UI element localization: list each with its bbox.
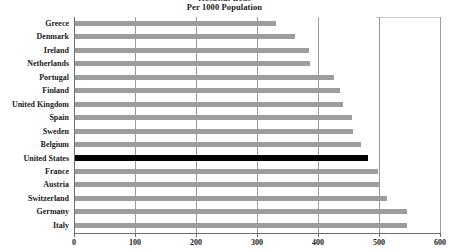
bar-ireland bbox=[75, 48, 309, 53]
bar-finland bbox=[75, 88, 340, 93]
chart-row: Ireland bbox=[0, 45, 449, 56]
chart-row: Greece bbox=[0, 18, 449, 29]
category-label-belgium: Belgium bbox=[0, 139, 69, 150]
bar-austria bbox=[75, 182, 379, 187]
chart-row: Spain bbox=[0, 112, 449, 123]
chart-row: Germany bbox=[0, 206, 449, 217]
chart-row: Switzerland bbox=[0, 193, 449, 204]
bar-portugal bbox=[75, 75, 334, 80]
x-tick-label: 200 bbox=[176, 238, 216, 247]
bar-germany bbox=[75, 209, 407, 214]
x-tick-label: 500 bbox=[359, 238, 399, 247]
chart-row: Belgium bbox=[0, 139, 449, 150]
bar-denmark bbox=[75, 34, 295, 39]
chart-row: Finland bbox=[0, 85, 449, 96]
category-label-united-kingdom: United Kingdom bbox=[0, 99, 69, 110]
x-tick-label: 0 bbox=[54, 238, 94, 247]
chart-title-clipped: Hospital Beds bbox=[0, 0, 449, 1]
chart-row: Netherlands bbox=[0, 58, 449, 69]
chart-row: Portugal bbox=[0, 72, 449, 83]
chart-row: United States bbox=[0, 153, 449, 164]
category-label-ireland: Ireland bbox=[0, 45, 69, 56]
category-label-france: France bbox=[0, 166, 69, 177]
category-label-finland: Finland bbox=[0, 85, 69, 96]
chart-row: Denmark bbox=[0, 31, 449, 42]
category-label-germany: Germany bbox=[0, 206, 69, 217]
chart-row: Austria bbox=[0, 179, 449, 190]
x-tick-0 bbox=[74, 233, 75, 237]
category-label-united-states: United States bbox=[0, 153, 69, 164]
category-label-spain: Spain bbox=[0, 112, 69, 123]
x-tick-label: 600 bbox=[420, 238, 449, 247]
bar-united-states bbox=[75, 155, 368, 161]
bar-sweden bbox=[75, 129, 353, 134]
category-label-netherlands: Netherlands bbox=[0, 58, 69, 69]
category-label-sweden: Sweden bbox=[0, 126, 69, 137]
bar-greece bbox=[75, 21, 276, 26]
category-label-denmark: Denmark bbox=[0, 31, 69, 42]
chart-row: France bbox=[0, 166, 449, 177]
category-label-italy: Italy bbox=[0, 220, 69, 231]
x-tick-100 bbox=[135, 233, 136, 237]
bar-belgium bbox=[75, 142, 361, 147]
chart-title: Per 1000 Population bbox=[0, 2, 449, 12]
chart-row: Sweden bbox=[0, 126, 449, 137]
chart-row: Italy bbox=[0, 220, 449, 231]
bar-united-kingdom bbox=[75, 102, 343, 107]
x-tick-label: 300 bbox=[237, 238, 277, 247]
chart-row: United Kingdom bbox=[0, 99, 449, 110]
bar-italy bbox=[75, 223, 407, 228]
bar-spain bbox=[75, 115, 352, 120]
x-tick-300 bbox=[257, 233, 258, 237]
category-label-switzerland: Switzerland bbox=[0, 193, 69, 204]
x-tick-400 bbox=[318, 233, 319, 237]
x-tick-200 bbox=[196, 233, 197, 237]
category-label-austria: Austria bbox=[0, 179, 69, 190]
category-label-portugal: Portugal bbox=[0, 72, 69, 83]
x-tick-600 bbox=[440, 233, 441, 237]
bar-france bbox=[75, 169, 378, 174]
category-label-greece: Greece bbox=[0, 18, 69, 29]
x-tick-label: 400 bbox=[298, 238, 338, 247]
x-tick-500 bbox=[379, 233, 380, 237]
bar-netherlands bbox=[75, 61, 310, 66]
bar-switzerland bbox=[75, 196, 387, 201]
x-tick-label: 100 bbox=[115, 238, 155, 247]
